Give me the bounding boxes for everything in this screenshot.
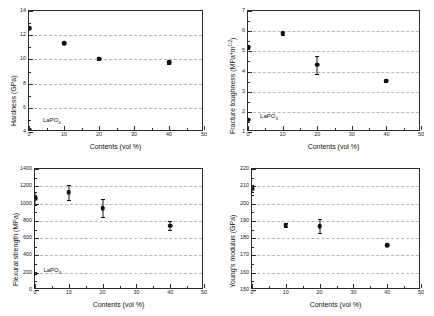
x-axis-minor-tick	[265, 128, 266, 130]
y-axis-tick	[29, 108, 33, 109]
error-bar-cap	[67, 185, 71, 186]
x-axis-minor-tick	[369, 128, 370, 130]
x-axis-tick-label: 50	[201, 290, 207, 295]
annotation-label-lapo4: LaPO4	[43, 267, 61, 276]
y-axis-tick-label: 190	[240, 218, 249, 223]
y-axis-minor-tick	[248, 41, 250, 42]
x-axis-tick-label: 50	[418, 132, 424, 137]
data-point	[385, 243, 390, 248]
plot-area-youngs-modulus	[252, 169, 419, 288]
y-axis-minor-tick	[248, 21, 250, 22]
y-axis-tick-label: 4	[23, 129, 26, 134]
x-axis-minor-tick	[117, 128, 118, 130]
data-point	[35, 196, 37, 201]
y-axis-minor-tick	[29, 72, 31, 73]
x-axis-tick	[352, 126, 353, 130]
plot-area-flexural-strength: LaPO4	[35, 169, 202, 288]
x-axis-tick	[134, 126, 135, 130]
x-axis-tick-label: 20	[317, 290, 323, 295]
data-point	[167, 60, 172, 65]
x-axis-tick	[353, 284, 354, 288]
data-point	[284, 223, 289, 228]
data-point	[29, 26, 31, 31]
y-axis-tick-label: 200	[23, 270, 32, 275]
x-axis-tick	[286, 284, 287, 288]
x-axis-tick-label: 50	[201, 132, 207, 137]
y-axis-minor-tick	[252, 230, 254, 231]
y-axis-minor-tick	[252, 212, 254, 213]
x-axis-tick-label: 40	[167, 290, 173, 295]
y-axis-tick-label: 1400	[20, 166, 32, 171]
error-bar-cap	[101, 217, 105, 218]
data-point	[97, 56, 102, 61]
y-axis-tick-label: 6	[23, 105, 26, 110]
y-axis-tick-label: 1000	[20, 201, 32, 206]
error-bar-cap	[318, 233, 322, 234]
y-axis-tick	[35, 221, 39, 222]
x-axis-tick-label: 0	[251, 290, 254, 295]
x-axis-minor-tick	[120, 286, 121, 288]
panel-youngs-modulus: 15016017018019020021022001020304050 Youn…	[217, 158, 434, 316]
x-axis-tick	[35, 284, 36, 288]
x-axis-tick-label: 10	[66, 290, 72, 295]
gridline	[252, 204, 419, 205]
gridline	[35, 255, 202, 256]
gridline	[35, 186, 202, 187]
y-axis-minor-tick	[252, 264, 254, 265]
data-point	[384, 78, 389, 83]
x-axis-tick	[421, 284, 422, 288]
x-axis-tick	[320, 284, 321, 288]
data-point	[315, 63, 320, 68]
y-axis-minor-tick	[252, 281, 254, 282]
x-axis-minor-tick	[187, 128, 188, 130]
y-axis-tick	[248, 92, 252, 93]
y-axis-tick	[252, 221, 256, 222]
x-axis-title-flexural-strength: Contents (vol %)	[34, 301, 203, 309]
x-axis-tick-label: 30	[133, 290, 139, 295]
gridline	[248, 31, 419, 32]
gridline	[248, 72, 419, 73]
y-axis-tick-label: 180	[240, 235, 249, 240]
x-axis-minor-tick	[404, 286, 405, 288]
y-axis-tick	[248, 112, 252, 113]
gridline	[248, 51, 419, 52]
y-axis-tick-label: 400	[23, 253, 32, 258]
gridline	[29, 108, 202, 109]
y-axis-tick-label: 170	[240, 253, 249, 258]
x-axis-tick-label: 50	[418, 290, 424, 295]
data-point	[100, 206, 105, 211]
x-axis-tick	[69, 284, 70, 288]
x-axis-tick	[387, 284, 388, 288]
x-axis-tick	[386, 126, 387, 130]
gridline	[252, 255, 419, 256]
y-axis-tick-label: 210	[240, 184, 249, 189]
plot-frame-hardness: LaPO4 46810121401020304050	[28, 10, 203, 131]
y-axis-minor-tick	[35, 247, 37, 248]
x-axis-tick	[169, 126, 170, 130]
gridline	[29, 84, 202, 85]
y-axis-tick	[252, 255, 256, 256]
gridline	[252, 186, 419, 187]
y-axis-tick-label: 200	[240, 201, 249, 206]
x-axis-tick	[29, 126, 30, 130]
y-axis-tick	[35, 255, 39, 256]
y-axis-tick	[29, 11, 33, 12]
x-axis-minor-tick	[86, 286, 87, 288]
y-axis-tick-label: 1200	[20, 184, 32, 189]
x-axis-tick-label: 30	[350, 290, 356, 295]
y-axis-tick	[35, 169, 39, 170]
y-axis-tick-label: 1	[242, 129, 245, 134]
panel-flexural-strength: LaPO4 0200400600800100012001400010203040…	[0, 158, 217, 316]
y-axis-tick-label: 6	[242, 28, 245, 33]
y-axis-minor-tick	[248, 122, 250, 123]
error-bar-cap	[315, 56, 319, 57]
y-axis-tick	[252, 273, 256, 274]
x-axis-tick	[204, 126, 205, 130]
y-axis-tick-label: 5	[242, 49, 245, 54]
y-axis-minor-tick	[35, 230, 37, 231]
y-axis-title-youngs-modulus: Young's modulus (GPa)	[229, 215, 237, 288]
y-axis-tick-label: 10	[20, 57, 26, 62]
annotation-label-lapo4: LaPO4	[260, 113, 278, 122]
y-axis-tick-label: 12	[20, 32, 26, 37]
panel-hardness: LaPO4 46810121401020304050 Hardness (GPa…	[0, 0, 217, 158]
